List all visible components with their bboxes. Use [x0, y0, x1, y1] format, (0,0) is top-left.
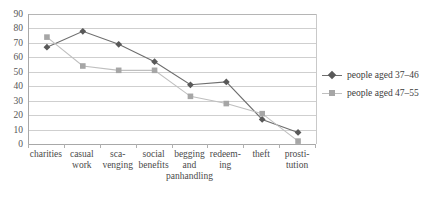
legend-item[interactable]: people aged 47–55: [322, 84, 428, 102]
y-axis-tick-label: 30: [14, 96, 24, 106]
series-1: [44, 28, 302, 136]
x-axis-tick: [28, 144, 29, 148]
x-axis-ticks: [28, 144, 315, 148]
y-axis-tick-label: 10: [14, 125, 24, 135]
data-point: [44, 34, 50, 40]
series-layer: [29, 14, 316, 144]
x-axis-tick: [315, 144, 316, 148]
data-point: [79, 28, 86, 35]
x-axis-tick: [279, 144, 280, 148]
series-line: [47, 31, 298, 132]
y-axis-tick-label: 60: [14, 52, 24, 62]
data-point: [115, 41, 122, 48]
y-axis-tick-label: 50: [14, 67, 24, 77]
y-axis-tick-label: 70: [14, 38, 24, 48]
y-axis-tick-label: 40: [14, 81, 24, 91]
data-point: [152, 68, 158, 74]
legend-item-label: people aged 47–55: [347, 88, 419, 99]
data-point: [259, 111, 265, 117]
x-axis-tick: [136, 144, 137, 148]
data-point: [151, 58, 158, 65]
x-axis-tick: [64, 144, 65, 148]
y-axis-tick-label: 0: [18, 139, 23, 149]
legend-item[interactable]: people aged 37–46: [322, 66, 428, 84]
data-point: [80, 63, 86, 69]
data-point: [116, 68, 122, 74]
data-point: [188, 94, 194, 100]
data-point: [44, 44, 51, 51]
series-2: [44, 34, 301, 144]
x-axis-tick: [172, 144, 173, 148]
x-axis: charitiescasual worksca- vengingsocial b…: [28, 149, 315, 197]
y-axis-tick-label: 20: [14, 110, 24, 120]
legend-item-label: people aged 37–46: [347, 70, 419, 81]
data-point: [295, 129, 302, 136]
line-chart: 9080706050403020100 charitiescasual work…: [0, 0, 428, 197]
square-marker-icon: [322, 88, 342, 98]
y-axis-tick-label: 80: [14, 23, 24, 33]
plot-area: [28, 14, 317, 144]
diamond-marker-icon: [322, 70, 342, 80]
chart-legend: people aged 37–46people aged 47–55: [322, 66, 428, 102]
series-line: [47, 37, 298, 141]
data-point: [187, 81, 194, 88]
data-point: [224, 101, 230, 107]
x-axis-category-label: prosti- tution: [273, 149, 321, 171]
x-axis-tick: [243, 144, 244, 148]
y-axis-tick-label: 90: [14, 9, 24, 19]
x-axis-tick: [207, 144, 208, 148]
x-axis-tick: [100, 144, 101, 148]
y-axis: 9080706050403020100: [0, 0, 26, 197]
